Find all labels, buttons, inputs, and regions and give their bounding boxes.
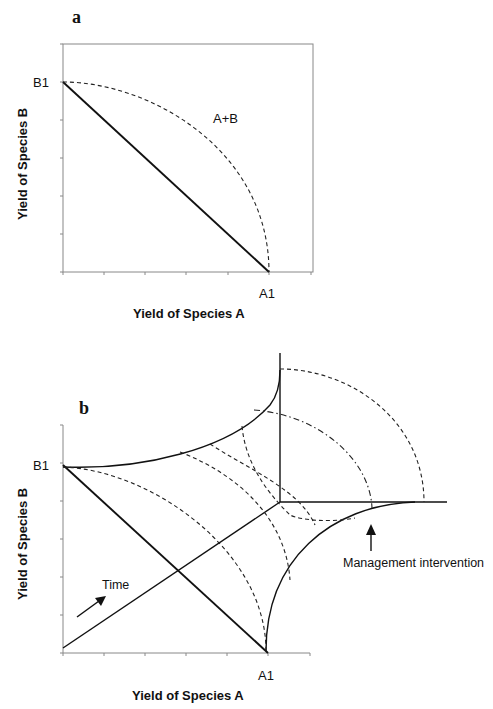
panel-a-y-axis-title: Yield of Species B xyxy=(15,108,30,220)
panel-b-lower-envelope xyxy=(266,502,415,651)
panel-a-x-axis-title: Yield of Species A xyxy=(133,306,245,321)
panel-b-yield-curve-5 xyxy=(254,410,372,508)
panel-a-a1-label: A1 xyxy=(259,286,275,301)
panel-b-time-arrowhead-icon xyxy=(95,596,106,606)
panel-b-x-axis-title: Yield of Species A xyxy=(132,688,244,703)
panel-a-b1-label: B1 xyxy=(33,75,49,90)
panel-b-yield-curve-2 xyxy=(180,452,290,580)
panel-b-a1-label: A1 xyxy=(258,668,274,683)
panel-a-linear-tradeoff-line xyxy=(63,82,269,272)
panel-b-b1-label: B1 xyxy=(33,458,49,473)
panel-b-yield-curve-3 xyxy=(210,444,315,525)
panel-b-outer-yield-curve xyxy=(280,369,424,502)
panel-b-linear-tradeoff-line xyxy=(63,465,268,653)
panel-a-label: a xyxy=(72,7,81,27)
panel-b-y-axis-title: Yield of Species B xyxy=(15,488,30,600)
panel-b-label: b xyxy=(79,398,89,418)
figure-canvas: a B1 A1 A+B Yield of S xyxy=(0,0,493,709)
panel-b-time-label: Time xyxy=(102,578,129,592)
panel-b-intervention-arrowhead-icon xyxy=(366,524,376,535)
panel-a-curve-label: A+B xyxy=(213,111,238,126)
panel-b-time-arrow-shaft xyxy=(77,601,99,617)
panel-a-frame xyxy=(63,44,313,272)
panel-b-upper-envelope xyxy=(63,370,280,467)
panel-a: a B1 A1 A+B Yield of S xyxy=(15,7,313,321)
panel-b-intervention-label: Management intervention xyxy=(343,556,484,570)
panel-b-time-axis-line xyxy=(63,502,280,648)
panel-b: b xyxy=(15,353,484,703)
